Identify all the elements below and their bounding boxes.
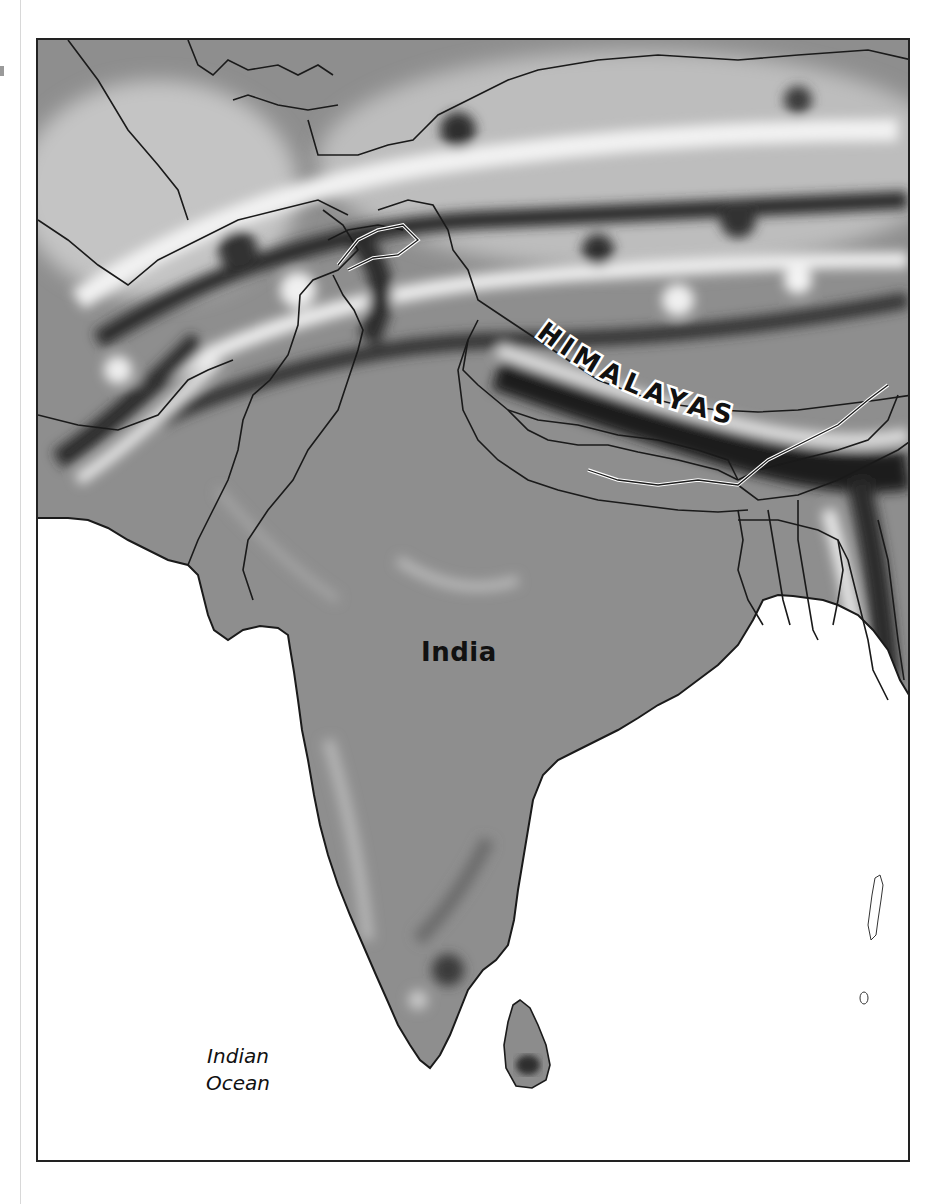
ocean-label-line2: Ocean xyxy=(206,1070,270,1097)
page-margin-mark xyxy=(0,66,4,76)
ocean-label-line1: Indian xyxy=(206,1043,270,1070)
relief-map: HIMALAYAS xyxy=(38,40,910,1162)
map-frame: HIMALAYAS India Indian Ocean xyxy=(36,38,910,1162)
indian-ocean-label: Indian Ocean xyxy=(206,1043,270,1097)
page-margin-rule xyxy=(20,0,21,1204)
india-label: India xyxy=(421,637,497,667)
